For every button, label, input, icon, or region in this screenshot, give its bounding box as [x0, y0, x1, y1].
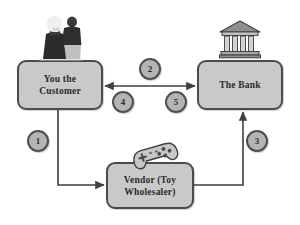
step-badge-4[interactable]: 4 — [112, 91, 134, 113]
connector-customer-vendor — [58, 110, 104, 185]
couple-photo-icon — [33, 7, 88, 63]
step-badge-2-label: 2 — [148, 64, 153, 74]
step-badge-5-label: 5 — [174, 97, 179, 107]
node-bank[interactable]: The Bank — [197, 60, 283, 110]
step-badge-2[interactable]: 2 — [139, 58, 161, 80]
bank-building-icon — [218, 17, 262, 61]
node-vendor-label: Vendor (Toy Wholesaler) — [121, 174, 179, 198]
diagram-canvas: You the Customer The Bank Vendor (Toy Wh… — [0, 0, 300, 225]
step-badge-3-label: 3 — [255, 136, 260, 146]
step-badge-1-label: 1 — [36, 136, 41, 146]
game-controller-icon — [129, 139, 181, 173]
connector-vendor-bank — [194, 112, 243, 185]
step-badge-1[interactable]: 1 — [27, 130, 49, 152]
step-badge-4-label: 4 — [121, 97, 126, 107]
step-badge-5[interactable]: 5 — [165, 91, 187, 113]
node-customer-label: You the Customer — [36, 73, 84, 97]
node-customer[interactable]: You the Customer — [17, 60, 103, 110]
step-badge-3[interactable]: 3 — [246, 130, 268, 152]
node-bank-label: The Bank — [216, 79, 263, 91]
